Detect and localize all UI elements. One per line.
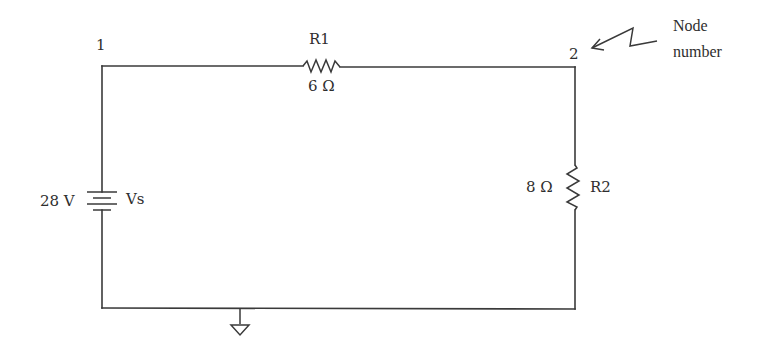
ground-icon xyxy=(231,308,249,335)
wire-bottom xyxy=(102,308,575,309)
circuit-diagram xyxy=(0,0,778,354)
source-value-label: 28 V xyxy=(40,194,75,209)
r1-name-label: R1 xyxy=(309,32,330,47)
resistor-r1-icon xyxy=(303,60,340,72)
node-number-arrow-icon xyxy=(592,28,657,50)
annotation-line2: number xyxy=(673,44,722,60)
battery-vs-icon xyxy=(87,192,117,210)
resistor-r2-icon xyxy=(567,165,579,210)
node-label-2: 2 xyxy=(569,47,579,62)
node-label-1: 1 xyxy=(96,38,106,53)
r2-value-label: 8 Ω xyxy=(526,180,553,195)
source-name-label: Vs xyxy=(126,192,145,207)
r1-value-label: 6 Ω xyxy=(308,79,335,94)
annotation-line1: Node xyxy=(673,18,708,34)
r2-name-label: R2 xyxy=(590,180,611,195)
